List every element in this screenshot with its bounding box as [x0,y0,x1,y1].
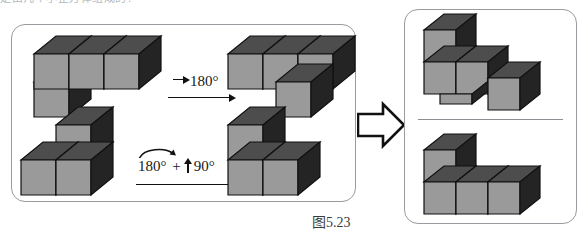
result-top-shape [424,14,574,114]
row2-arrow-shaft [136,184,232,185]
row2-source-shape [21,107,141,199]
block-right-arrow-icon [357,101,406,149]
row1-operation-label: 180° [173,73,219,90]
row2-operation-label: 180° + 90° 180° +90° [138,158,215,175]
right-arrow-icon [173,76,190,84]
row1-result-shape [228,36,358,118]
result-panel-divider [418,119,563,120]
row2-op-180: 180° [138,158,167,174]
row2-op-90: 90° [194,158,215,174]
figure-caption: 图5.23 [312,211,351,231]
row1-source-shape [34,36,164,118]
curved-rotation-arrow-icon [138,146,178,160]
result-bottom-shape [424,134,574,234]
row2-result-shape [228,107,358,199]
transformation-panel: 180° [11,24,356,202]
clipped-header-text: 是由几个小正方体组成的？ [0,0,583,9]
up-arrow-icon [184,158,193,173]
row1-arrow-shaft [168,97,230,98]
